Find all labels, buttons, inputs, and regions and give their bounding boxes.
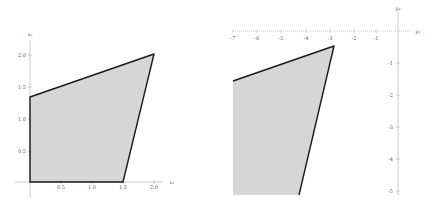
x-tick-label: -6 — [255, 35, 260, 41]
feasible-region-x — [30, 54, 154, 182]
x-axis-label: x₁ — [170, 179, 175, 185]
y-tick-label: 2.0 — [18, 52, 26, 58]
left-chart: 0.5 1.0 1.5 2.0 0.5 1.0 1.5 2.0 x₁ x₂ — [15, 31, 174, 198]
x-tick-label: -2 — [352, 35, 357, 41]
y-axis-label: y₂ — [395, 5, 401, 12]
y-tick-label: -1 — [388, 60, 393, 66]
x-tick-label: 0.5 — [57, 184, 65, 190]
y-tick-label: -2 — [388, 92, 393, 98]
y-tick-label: -3 — [388, 124, 393, 130]
x-tick-label: -3 — [328, 35, 333, 41]
y-tick-label: -5 — [388, 188, 393, 194]
figure: 0.5 1.0 1.5 2.0 0.5 1.0 1.5 2.0 x₁ x₂ — [0, 0, 435, 209]
x-tick-label: 2.0 — [150, 184, 158, 190]
x-tick-label: 1.5 — [119, 184, 127, 190]
x-tick-label: -4 — [304, 35, 309, 41]
y-tick-label: 1.5 — [18, 84, 26, 90]
y-tick-label: 0.5 — [18, 148, 26, 154]
x-tick-label: -7 — [231, 35, 236, 41]
feasible-region-y — [233, 46, 334, 195]
right-chart: -7 -6 -5 -4 -3 -2 -1 -1 -2 -3 -4 -5 y₁ y… — [231, 5, 421, 195]
x-axis-label: y₁ — [415, 28, 421, 35]
y-tick-label: 1.0 — [18, 116, 26, 122]
x-tick-label: -5 — [279, 35, 284, 41]
y-tick-label: -4 — [388, 156, 393, 162]
x-tick-label: -1 — [374, 35, 379, 41]
y-axis-label: x₂ — [28, 31, 33, 37]
x-tick-label: 1.0 — [88, 184, 96, 190]
